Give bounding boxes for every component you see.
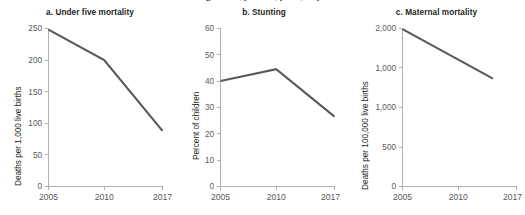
panel-b-series-line <box>221 69 335 117</box>
panel-b-plot: 0 10 20 30 40 50 60 2005 2010 2017 <box>178 0 350 215</box>
panel-b-y-ticks: 0 10 20 30 40 50 60 <box>205 24 221 191</box>
panel-c-plot: 0 500 1,000 1,000 2,000 2005 2010 2017 <box>348 0 525 215</box>
panel-under-five-mortality: a. Under five mortality Deaths per 1,000… <box>0 0 180 215</box>
panel-a-xtick-1: 2010 <box>95 192 114 202</box>
panel-c-ytick-3: 1,000 <box>376 64 397 73</box>
panel-a-ytick-2: 100 <box>28 119 42 128</box>
panel-c-y-ticks: 0 500 1,000 1,000 2,000 <box>376 24 403 191</box>
panel-maternal-mortality: c. Maternal mortality Deaths per 100,000… <box>348 0 525 215</box>
panel-c-xtick-1: 2010 <box>449 192 468 202</box>
panel-a-xtick-2: 2017 <box>153 192 172 202</box>
panel-b-ytick-3: 30 <box>205 103 215 112</box>
panel-a-ytick-5: 250 <box>28 24 42 33</box>
panel-b-ytick-1: 10 <box>205 156 215 165</box>
panel-c-ytick-2: 1,000 <box>376 103 397 112</box>
panel-b-ytick-5: 50 <box>205 51 215 60</box>
panel-a-plot: 0 50 100 150 200 250 2005 2010 2017 <box>0 0 180 215</box>
panel-c-xtick-0: 2005 <box>393 192 412 202</box>
panel-c-xtick-2: 2017 <box>503 192 522 202</box>
panel-a-ytick-3: 150 <box>28 88 42 97</box>
panel-a-ytick-1: 50 <box>33 151 43 160</box>
panel-b-xtick-1: 2010 <box>267 192 286 202</box>
panel-c-x-ticks: 2005 2010 2017 <box>393 187 522 203</box>
panel-b-ytick-6: 60 <box>205 24 215 33</box>
panel-a-ytick-4: 200 <box>28 56 42 65</box>
panel-b-xtick-2: 2017 <box>321 192 340 202</box>
panel-a-series-line <box>49 30 163 131</box>
panel-c-ytick-4: 2,000 <box>376 24 397 33</box>
panel-b-ytick-2: 20 <box>205 130 215 139</box>
multi-panel-figure: (percent, percent, per 1,000) a. Under f… <box>0 0 525 215</box>
panel-b-ytick-4: 40 <box>205 77 215 86</box>
panel-stunting: b. Stunting Percent of children 0 10 20 … <box>178 0 350 215</box>
panel-a-y-ticks: 0 50 100 150 200 250 <box>28 24 48 191</box>
panel-a-xtick-0: 2005 <box>39 192 58 202</box>
panel-b-x-ticks: 2005 2010 2017 <box>211 187 340 203</box>
panel-a-x-ticks: 2005 2010 2017 <box>39 187 172 203</box>
panel-c-series-line <box>403 29 494 78</box>
panel-c-ytick-1: 500 <box>382 143 396 152</box>
panel-a-ytick-0: 0 <box>37 182 42 191</box>
panel-c-ytick-0: 0 <box>391 182 396 191</box>
panel-b-xtick-0: 2005 <box>211 192 230 202</box>
panel-b-ytick-0: 0 <box>209 182 214 191</box>
